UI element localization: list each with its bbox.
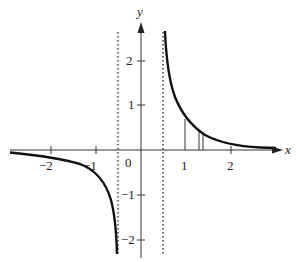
y-tick-label: −1 bbox=[121, 187, 135, 202]
area-segments bbox=[185, 119, 203, 150]
x-tick-label: −1 bbox=[83, 158, 97, 173]
origin-label: 0 bbox=[125, 155, 132, 170]
right-branch-curve bbox=[165, 31, 276, 148]
y-tick-label: 1 bbox=[128, 97, 135, 112]
y-tick-label: 2 bbox=[126, 53, 133, 68]
x-axis-label: x bbox=[284, 142, 291, 157]
x-tick-label: 2 bbox=[227, 158, 234, 173]
left-branch-curve bbox=[10, 153, 117, 255]
function-graph: x y 0 −2 −1 1 2 2 1 −1 −2 bbox=[0, 0, 296, 262]
y-axis-label: y bbox=[135, 4, 143, 19]
x-tick-label: −2 bbox=[39, 158, 53, 173]
y-tick-label: −2 bbox=[121, 232, 135, 247]
x-tick-label: 1 bbox=[181, 158, 188, 173]
y-axis-arrow-icon bbox=[138, 22, 145, 33]
